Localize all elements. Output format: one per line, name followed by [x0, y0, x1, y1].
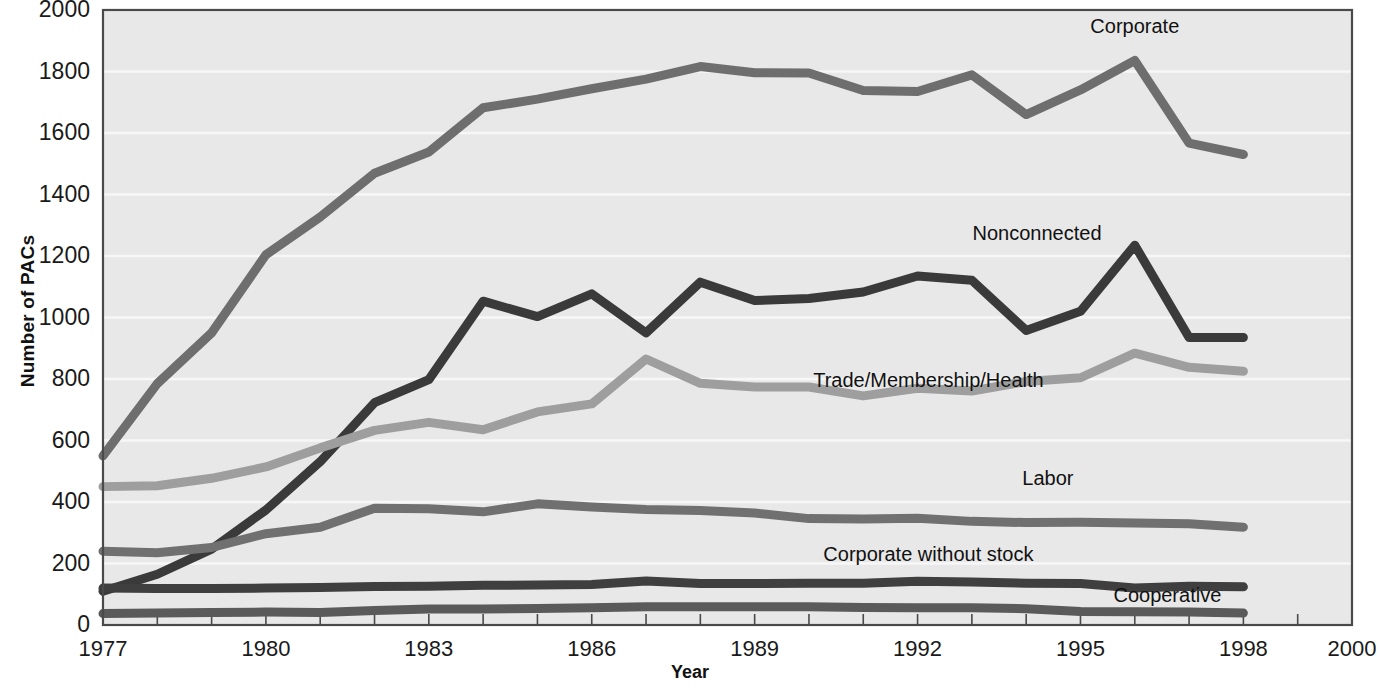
- x-tick-1998: 1998: [1183, 636, 1303, 662]
- y-tick-2000: 2000: [2, 0, 90, 23]
- x-tick-1995: 1995: [1020, 636, 1140, 662]
- x-tick-1977: 1977: [43, 636, 163, 662]
- x-tick-1992: 1992: [858, 636, 978, 662]
- x-tick-1986: 1986: [532, 636, 652, 662]
- pac-growth-line-chart: Number of PACs Year 02004006008001000120…: [0, 0, 1380, 698]
- y-tick-400: 400: [2, 488, 90, 515]
- series-label-trade-membership-health: Trade/Membership/Health: [813, 369, 1043, 392]
- x-tick-1989: 1989: [695, 636, 815, 662]
- y-tick-1200: 1200: [2, 242, 90, 269]
- series-label-corporate: Corporate: [1090, 15, 1179, 38]
- y-tick-1000: 1000: [2, 304, 90, 331]
- y-tick-1600: 1600: [2, 119, 90, 146]
- y-tick-800: 800: [2, 365, 90, 392]
- y-tick-1400: 1400: [2, 181, 90, 208]
- series-label-labor: Labor: [1022, 467, 1073, 490]
- series-label-nonconnected: Nonconnected: [973, 222, 1102, 245]
- y-tick-1800: 1800: [2, 58, 90, 85]
- x-tick-1980: 1980: [206, 636, 326, 662]
- series-label-cooperative: Cooperative: [1113, 584, 1221, 607]
- y-tick-0: 0: [2, 611, 90, 638]
- y-tick-200: 200: [2, 550, 90, 577]
- x-tick-2000: 2000: [1292, 636, 1380, 662]
- series-label-corporate-without-stock: Corporate without stock: [823, 543, 1033, 566]
- x-tick-1983: 1983: [369, 636, 489, 662]
- y-tick-600: 600: [2, 427, 90, 454]
